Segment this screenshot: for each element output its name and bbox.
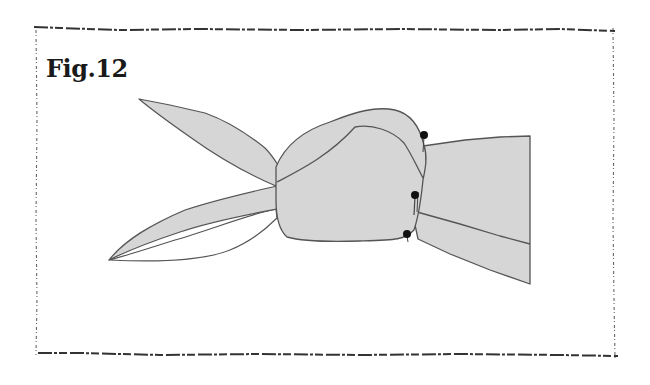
figure-label: Fig.12: [46, 54, 128, 83]
lower-left-loop: [109, 186, 277, 261]
frame-right-edge: [613, 28, 615, 358]
frame-bottom-edge: [38, 353, 618, 356]
frame-top-edge: [34, 27, 615, 31]
upper-left-loop: [139, 99, 280, 186]
center-knot: [276, 109, 426, 242]
pin-icon: [403, 230, 411, 242]
frame-left-edge: [36, 30, 37, 355]
right-tail-band: [414, 136, 530, 284]
figure-canvas: Fig.12: [0, 0, 650, 385]
